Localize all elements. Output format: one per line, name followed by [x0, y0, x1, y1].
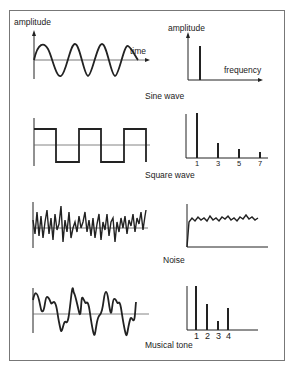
caption-sine-wave: Sine wave [145, 92, 184, 101]
tick-label: 3 [216, 332, 221, 341]
musical-tone-spectrum-plot [187, 286, 258, 330]
square-spectrum-plot [186, 113, 268, 158]
caption-square-wave: Square wave [145, 171, 195, 180]
amplitude-label-right: amplitude [168, 24, 205, 33]
tick-label: 3 [216, 160, 220, 168]
tick-label: 4 [226, 332, 231, 341]
tick-label: 2 [205, 332, 210, 341]
tick-label: 1 [195, 160, 199, 168]
tick-label: 1 [194, 332, 199, 341]
tick-label: 7 [258, 160, 262, 168]
waveforms-diagram [0, 0, 296, 372]
musical-tone-plot [33, 288, 149, 335]
square-wave-plot [34, 118, 150, 166]
frequency-label: frequency [224, 66, 261, 75]
noise-plot [33, 202, 148, 248]
caption-noise: Noise [163, 256, 185, 265]
noise-spectrum-plot [187, 204, 268, 247]
time-label: time [130, 47, 146, 56]
amplitude-label-left: amplitude [14, 18, 51, 27]
tick-label: 5 [237, 160, 241, 168]
caption-musical-tone: Musical tone [145, 341, 193, 350]
